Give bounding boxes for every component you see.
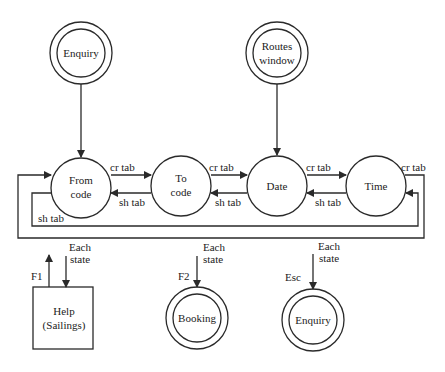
routes-window-label-1: Routes	[262, 40, 293, 52]
from-code-label-2: code	[71, 188, 92, 200]
help-node	[33, 287, 93, 349]
to-code-label-2: code	[171, 186, 192, 198]
to-code-label-1: To	[175, 172, 187, 184]
help-label-1: Help	[53, 305, 75, 317]
enquiry-exit-source-label-1: Each	[318, 240, 340, 252]
from-code-label-1: From	[69, 174, 93, 186]
booking-source-label-2: state	[203, 253, 223, 265]
f2-key-label: F2	[178, 270, 190, 282]
sh-tab-label-4: sh tab	[38, 212, 64, 224]
help-source-label-2: state	[70, 253, 90, 265]
cr-tab-label-3: cr tab	[306, 161, 331, 173]
booking-source-label-1: Each	[203, 241, 225, 253]
help-label-2: (Sailings)	[43, 319, 86, 332]
booking-label: Booking	[178, 312, 216, 324]
routes-window-label-2: window	[259, 54, 295, 66]
enquiry-exit-label: Enquiry	[295, 314, 331, 326]
esc-key-label: Esc	[285, 271, 301, 283]
routes-window-node	[246, 22, 308, 84]
enquiry-entry-label: Enquiry	[63, 47, 99, 59]
sh-tab-label-1: sh tab	[119, 196, 145, 208]
enquiry-exit-source-label-2: state	[319, 252, 339, 264]
cr-tab-label-1: cr tab	[110, 161, 135, 173]
sh-tab-label-3: sh tab	[315, 196, 341, 208]
time-label: Time	[365, 180, 388, 192]
f1-key-label: F1	[31, 270, 43, 282]
date-label: Date	[267, 180, 288, 192]
sh-tab-label-2: sh tab	[215, 196, 241, 208]
help-source-label-1: Each	[69, 241, 91, 253]
cr-tab-label-4: cr tab	[401, 161, 426, 173]
state-diagram: Enquiry Routes window From code To code …	[0, 0, 445, 372]
cr-tab-label-2: cr tab	[209, 161, 234, 173]
